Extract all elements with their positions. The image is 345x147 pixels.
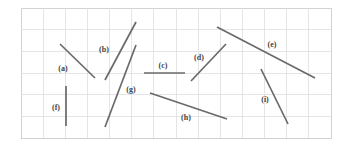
line-segment-figure: (a)(b)(c)(d)(e)(f)(g)(h)(i)	[0, 0, 345, 147]
segment-label-2: (c)	[159, 61, 168, 70]
segment-label-5: (f)	[52, 103, 60, 112]
segment-label-7: (h)	[181, 113, 191, 122]
segment-label-3: (d)	[194, 53, 204, 62]
segment-label-8: (i)	[261, 95, 269, 104]
segment-label-4: (e)	[268, 40, 277, 49]
segment-label-6: (g)	[126, 85, 136, 94]
segment-label-0: (a)	[58, 64, 68, 73]
figure-canvas: (a)(b)(c)(d)(e)(f)(g)(h)(i)	[0, 0, 345, 147]
segment-label-1: (b)	[99, 45, 109, 54]
